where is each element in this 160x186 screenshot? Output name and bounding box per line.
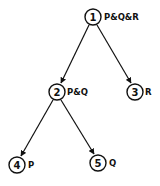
node-1: 1 P&Q&R — [85, 9, 139, 25]
node-number: 4 — [14, 160, 21, 171]
node-4: 4 P — [9, 157, 34, 173]
node-5: 5 Q — [90, 155, 116, 171]
node-number: 1 — [90, 12, 97, 23]
node-label: Q — [109, 158, 116, 168]
edge-2-5 — [61, 100, 94, 154]
node-label: P&Q&R — [104, 12, 139, 22]
node-label: P&Q — [67, 87, 88, 97]
node-number: 5 — [95, 158, 102, 169]
edge-2-4 — [21, 100, 53, 156]
node-3: 3 R — [127, 84, 152, 100]
node-number: 3 — [132, 87, 139, 98]
node-label: P — [28, 160, 34, 170]
node-label: R — [145, 87, 152, 97]
tree-diagram: 1 P&Q&R 2 P&Q 3 R 4 P 5 Q — [0, 0, 160, 186]
edge-1-3 — [97, 25, 131, 83]
edge-1-2 — [61, 25, 89, 83]
node-number: 2 — [54, 87, 61, 98]
node-2: 2 P&Q — [49, 84, 88, 100]
